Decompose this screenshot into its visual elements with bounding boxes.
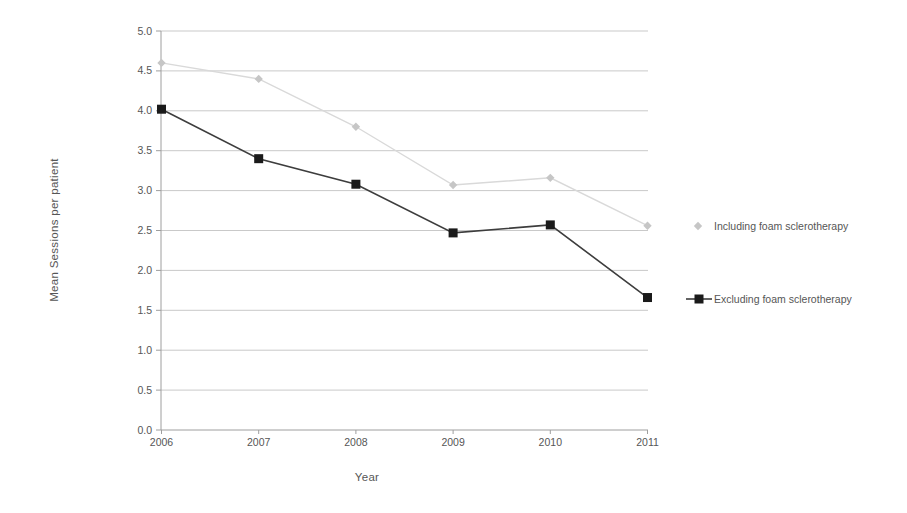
- data-point-excluding-2007: [254, 154, 263, 163]
- data-point-excluding-2008: [351, 180, 360, 189]
- y-tick-label: 4.5: [137, 64, 152, 76]
- y-tick-label: 2.5: [137, 224, 152, 236]
- legend-diamond-icon: [694, 222, 702, 230]
- legend-label-excluding: Excluding foam sclerotherapy: [714, 293, 852, 305]
- legend-square-icon: [695, 295, 704, 304]
- series: [157, 59, 652, 302]
- x-axis-title: Year: [355, 471, 379, 483]
- x-tick-label: 2006: [150, 436, 174, 448]
- x-tick-label: 2008: [344, 436, 368, 448]
- x-tick-label: 2011: [636, 436, 659, 448]
- data-point-excluding-2011: [643, 293, 652, 302]
- y-tick-label: 3.5: [137, 144, 152, 156]
- axes: [156, 31, 648, 434]
- series-including-line: [162, 63, 648, 226]
- data-point-including-2007: [255, 75, 263, 83]
- legend: Including foam sclerotherapy Excluding f…: [686, 220, 852, 305]
- y-tick-label: 5.0: [137, 25, 152, 37]
- x-tick-label: 2009: [441, 436, 465, 448]
- x-tick-label: 2007: [247, 436, 271, 448]
- y-tick-label: 1.0: [137, 344, 152, 356]
- data-point-excluding-2009: [449, 228, 458, 237]
- x-tick-label: 2010: [539, 436, 563, 448]
- y-tick-label: 0.0: [137, 424, 152, 436]
- data-point-excluding-2006: [157, 105, 166, 114]
- y-axis-title: Mean Sessions per patient: [48, 158, 60, 302]
- chart-figure: 0.00.51.01.52.02.53.03.54.04.55.02006200…: [0, 0, 907, 513]
- legend-item-excluding: Excluding foam sclerotherapy: [686, 293, 852, 305]
- y-tick-label: 0.5: [137, 384, 152, 396]
- gridlines: [161, 31, 648, 390]
- data-point-including-2011: [643, 222, 651, 230]
- series-excluding-line: [162, 109, 648, 297]
- legend-item-including: Including foam sclerotherapy: [694, 220, 849, 232]
- y-tick-label: 1.5: [137, 304, 152, 316]
- data-point-including-2008: [352, 123, 360, 131]
- data-point-including-2009: [449, 181, 457, 189]
- y-tick-label: 3.0: [137, 184, 152, 196]
- y-tick-label: 2.0: [137, 264, 152, 276]
- tick-labels: 0.00.51.01.52.02.53.03.54.04.55.02006200…: [137, 25, 659, 449]
- data-point-excluding-2010: [546, 220, 555, 229]
- data-point-including-2006: [157, 59, 165, 67]
- legend-label-including: Including foam sclerotherapy: [714, 220, 849, 232]
- data-point-including-2010: [546, 174, 554, 182]
- line-chart: 0.00.51.01.52.02.53.03.54.04.55.02006200…: [0, 0, 907, 513]
- y-tick-label: 4.0: [137, 104, 152, 116]
